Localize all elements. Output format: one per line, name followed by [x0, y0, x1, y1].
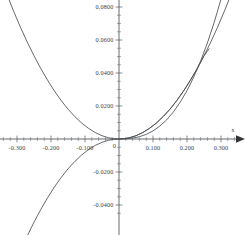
x-tick-label: -0.200	[43, 144, 60, 151]
curve-curve-shallow-right	[119, 0, 247, 139]
x-tick-label: 0.200	[180, 144, 195, 151]
x-tick-label: -0.100	[77, 144, 94, 151]
x-tick-label: -0.300	[9, 144, 26, 151]
x-axis-arrow-icon	[236, 135, 245, 143]
y-tick-label: 0.0600	[96, 36, 114, 43]
x-axis-label: x	[232, 127, 235, 133]
x-tick-label: 0.100	[146, 144, 161, 151]
y-tick-label: -0.0400	[93, 201, 113, 208]
function-plot: -0.300-0.200-0.1000.1000.2000.300 0.0800…	[0, 0, 247, 235]
origin-label: 0	[113, 142, 116, 149]
curves-group	[0, 0, 247, 235]
y-tick-labels-group: 0.08000.06000.04000.0200-0.0200-0.0400	[93, 3, 113, 208]
y-tick-label: 0.0800	[96, 3, 114, 10]
y-tick-label: 0.0400	[96, 69, 114, 76]
x-tick-label: 0.300	[214, 144, 229, 151]
y-tick-label: 0.0200	[96, 102, 114, 109]
plot-canvas: -0.300-0.200-0.1000.1000.2000.300 0.0800…	[0, 0, 247, 235]
y-tick-label: -0.0200	[93, 168, 113, 175]
